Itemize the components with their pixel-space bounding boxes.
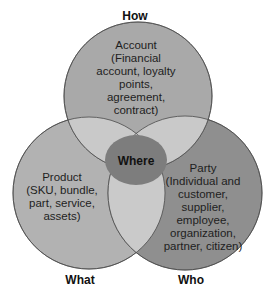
svg-text:customer,: customer, — [178, 188, 228, 200]
svg-text:contract): contract) — [114, 104, 159, 116]
svg-text:(Financial: (Financial — [111, 52, 161, 64]
what-label: What — [65, 273, 94, 287]
svg-text:(Individual and: (Individual and — [166, 175, 241, 187]
svg-text:part, service,: part, service, — [29, 197, 95, 209]
svg-text:employee,: employee, — [176, 214, 229, 226]
venn-diagram: Where How What Who Account (Financial ac… — [0, 0, 271, 293]
svg-text:Account: Account — [115, 39, 157, 51]
svg-text:agreement,: agreement, — [107, 91, 165, 103]
svg-text:supplier,: supplier, — [182, 201, 225, 213]
svg-text:Party: Party — [190, 162, 217, 174]
svg-text:organization,: organization, — [170, 227, 236, 239]
who-label: Who — [178, 273, 204, 287]
svg-text:points,: points, — [119, 78, 153, 90]
svg-text:Product: Product — [42, 171, 82, 183]
svg-text:(SKU, bundle,: (SKU, bundle, — [26, 184, 98, 196]
svg-text:account, loyalty: account, loyalty — [96, 65, 176, 77]
svg-text:partner, citizen): partner, citizen) — [164, 240, 243, 252]
where-label: Where — [118, 154, 155, 168]
how-label: How — [122, 9, 148, 23]
svg-text:assets): assets) — [43, 210, 80, 222]
